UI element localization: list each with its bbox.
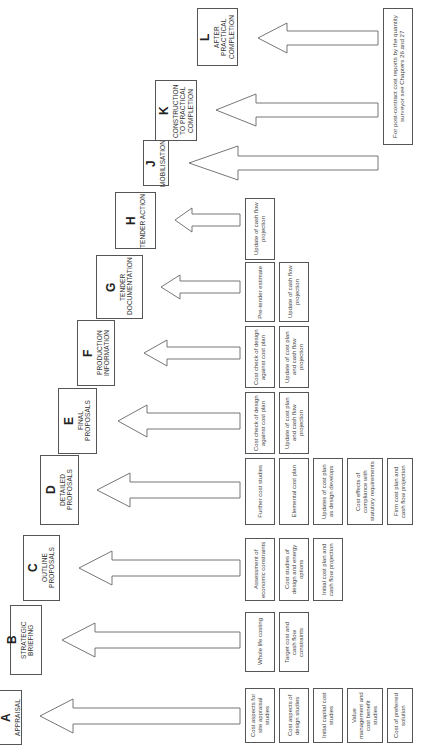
activity-box: Elemental cost plan xyxy=(279,458,309,525)
activity-text: Update of cost plan and cash flow projec… xyxy=(282,393,307,453)
activity-text: Target cost and cash flow constraints xyxy=(282,613,307,671)
activity-text: Cost aspects for site appraisal studies xyxy=(248,689,273,742)
activity-box: Update of cash flow projection xyxy=(279,262,309,322)
activity-box: Update of cost plan and cash flow projec… xyxy=(279,392,309,454)
activity-text: Whole life costing xyxy=(255,616,266,667)
activity-box: Whole life costing xyxy=(245,612,275,672)
activity-text: Updates of cost plan as design develops xyxy=(319,459,337,524)
activity-box: Initial capital cost studies xyxy=(313,688,343,743)
activity-box: Cost check of design against cost plan xyxy=(245,326,275,388)
activity-box: Cost studies of design and energy option… xyxy=(279,538,309,601)
activity-text: Pre-tender estimate xyxy=(255,264,266,321)
note-text: For post-contract cost reports by the qu… xyxy=(389,9,407,144)
post-contract-note: For post-contract cost reports by the qu… xyxy=(383,8,413,145)
activity-box: Cost effects of compliance with statutor… xyxy=(347,458,383,525)
activity-box: Cost aspects of design studies xyxy=(279,688,309,743)
activity-text: Update of cash flow projection xyxy=(285,263,303,321)
activity-text: Value management and cost benefit studie… xyxy=(349,689,381,742)
activity-text: Cost of preferred solution xyxy=(391,689,409,742)
activity-text: Assessment of economic constraints xyxy=(251,539,269,600)
activity-text: Update of cash flow projection xyxy=(251,199,269,259)
activity-text: Firm cost plan and cash flow projection xyxy=(391,459,409,524)
activity-text: Cost check of design against cost plan xyxy=(251,393,269,453)
activity-box: Target cost and cash flow constraints xyxy=(279,612,309,672)
activity-box: Value management and cost benefit studie… xyxy=(347,688,383,743)
activity-text: Further cost studies xyxy=(255,463,266,520)
activity-text: Cost aspects of design studies xyxy=(285,689,303,742)
activity-box: Firm cost plan and cash flow projection xyxy=(387,458,413,525)
activity-box: Cost check of design against cost plan xyxy=(245,392,275,454)
activity-box: Updates of cost plan as design develops xyxy=(313,458,343,525)
activity-box: Initial cost plan and cash flow projecti… xyxy=(313,538,343,601)
activity-text: Cost studies of design and energy option… xyxy=(282,539,307,600)
activity-box: Pre-tender estimate xyxy=(245,262,275,322)
activity-box: Assessment of economic constraints xyxy=(245,538,275,601)
activity-box: Cost aspects for site appraisal studies xyxy=(245,688,275,743)
activity-box: Update of cash flow projection xyxy=(245,198,275,260)
activity-text: Initial cost plan and cash flow projecti… xyxy=(319,539,337,600)
activity-text: Cost check of design against cost plan xyxy=(251,327,269,387)
activity-text: Elemental cost plan xyxy=(289,463,300,519)
activity-box: Cost of preferred solution xyxy=(387,688,413,743)
activity-box: Further cost studies xyxy=(245,458,275,525)
activity-text: Initial capital cost studies xyxy=(319,689,337,742)
activity-text: Update of cost plan and cash flow projec… xyxy=(282,327,307,387)
activity-text: Cost effects of compliance with statutor… xyxy=(353,459,378,524)
activity-box: Update of cost plan and cash flow projec… xyxy=(279,326,309,388)
